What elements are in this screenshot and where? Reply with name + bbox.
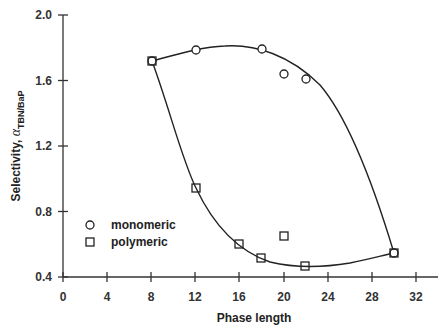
y-tick-label: 1.2 [35,139,52,153]
y-axis-title-subscript: TBN/BaP [16,90,26,129]
data-point-monomeric [302,75,310,83]
x-tick-label: 12 [188,290,202,304]
data-point-monomeric [148,57,156,65]
monomeric-series [148,45,398,257]
x-tick-label: 20 [277,290,291,304]
y-tick-labels: 2.0 1.6 1.2 0.8 0.4 [35,8,52,284]
x-tick-label: 4 [104,290,111,304]
x-tick-label: 32 [409,290,423,304]
x-tick-label: 0 [60,290,67,304]
x-tick-label: 24 [321,290,335,304]
data-point-monomeric [258,45,266,53]
x-tick-labels: 0 4 8 12 16 20 24 28 32 [60,290,423,304]
y-tick-label: 0.4 [35,270,52,284]
x-tick-label: 16 [232,290,246,304]
y-tick-label: 0.8 [35,205,52,219]
legend-label-polymeric: polymeric [111,235,168,249]
legend: monomeric polymeric [86,218,176,249]
y-axis-title: Selectivity, αTBN/BaP [8,90,26,201]
monomeric-fit-curve [152,46,394,253]
legend-circle-icon [86,221,94,229]
data-point-monomeric [192,46,200,54]
x-tick-label: 8 [148,290,155,304]
x-tick-label: 28 [365,290,379,304]
data-point-monomeric [280,70,288,78]
y-axis-title-main: Selectivity, [9,136,23,201]
legend-square-icon [86,238,94,246]
svg-text:Selectivity, αTBN/BaP: Selectivity, αTBN/BaP [8,90,26,201]
polymeric-fit-curve [152,61,394,267]
data-point-polymeric [280,232,288,240]
y-tick-label: 2.0 [35,8,52,22]
chart-canvas: 2.0 1.6 1.2 0.8 0.4 0 4 8 12 16 20 24 28… [0,0,448,332]
x-axis-title: Phase length [217,311,292,325]
data-point-monomeric [390,249,398,257]
legend-label-monomeric: monomeric [111,218,176,232]
y-tick-label: 1.6 [35,74,52,88]
